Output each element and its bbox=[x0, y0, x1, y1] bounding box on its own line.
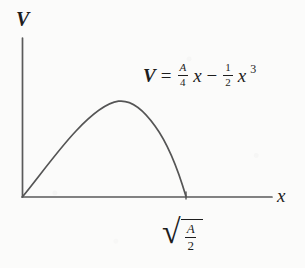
minus-sign: − bbox=[206, 66, 219, 85]
radicand: A 2 bbox=[181, 219, 203, 252]
term2-exponent: 3 bbox=[250, 63, 256, 75]
radical-icon: √ bbox=[162, 219, 181, 246]
fraction-denominator: 2 bbox=[185, 237, 196, 253]
fraction-numerator: A bbox=[185, 222, 197, 237]
plot-canvas bbox=[0, 0, 305, 268]
term2-variable: x bbox=[238, 66, 246, 85]
x-axis-label: x bbox=[277, 186, 286, 205]
fraction-numerator: A bbox=[177, 62, 188, 75]
potential-curve bbox=[23, 101, 187, 197]
fraction-denominator: 4 bbox=[178, 75, 188, 89]
equation-lhs: V bbox=[143, 66, 156, 85]
fraction-numerator: 1 bbox=[223, 62, 233, 75]
term1-variable: x bbox=[193, 66, 201, 85]
fraction-1-over-2: 1 2 bbox=[223, 62, 233, 88]
x-intercept-label: √ A 2 bbox=[162, 214, 203, 247]
equals-sign: = bbox=[160, 66, 173, 85]
fraction-a-over-4: A 4 bbox=[177, 62, 188, 88]
figure-container: V x V = A 4 x − 1 2 x3 √ A 2 bbox=[0, 0, 305, 268]
fraction-a-over-2: A 2 bbox=[185, 222, 197, 252]
y-axis-label: V bbox=[16, 9, 30, 29]
fraction-denominator: 2 bbox=[223, 75, 233, 89]
equation-annotation: V = A 4 x − 1 2 x3 bbox=[143, 62, 256, 88]
